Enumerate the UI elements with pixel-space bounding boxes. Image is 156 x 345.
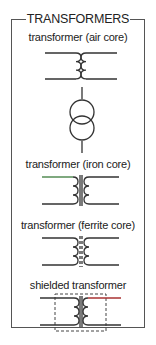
transformer-circles-symbol: [0, 87, 156, 153]
iron-core-transformer-symbol: [0, 172, 156, 212]
label-iron-core: transformer (iron core): [0, 158, 156, 170]
shielded-transformer-symbol: [0, 292, 156, 334]
label-shielded: shielded transformer: [0, 279, 156, 291]
ferrite-core-transformer-symbol: [0, 233, 156, 273]
diagram-title: TRANSFORMERS: [0, 12, 156, 26]
label-ferrite-core: transformer (ferrite core): [0, 219, 156, 231]
air-core-transformer-symbol: [0, 48, 156, 88]
label-air-core: transformer (air core): [0, 31, 156, 43]
